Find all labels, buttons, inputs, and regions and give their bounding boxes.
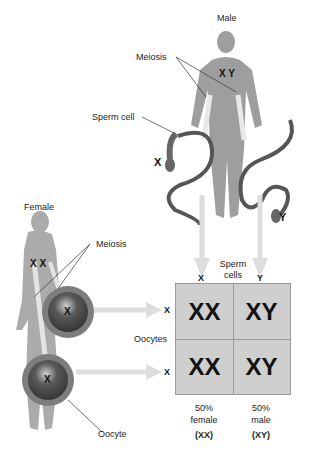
cell-xy-1: XY	[233, 284, 290, 340]
male-result: 50% male (XY)	[236, 402, 286, 441]
egg-2-chromosome: X	[44, 374, 51, 385]
female-result: 50% female (XX)	[179, 402, 229, 441]
male-genotype: (XY)	[236, 429, 286, 441]
cell-xx-1: XX	[176, 284, 234, 340]
male-sex: male	[236, 414, 286, 426]
row-header-x-1: X	[164, 305, 170, 315]
female-genotype: (XX)	[179, 429, 229, 441]
male-label: Male	[217, 13, 237, 23]
sperm-x-label: X	[154, 156, 161, 168]
oocytes-header: Oocytes	[134, 334, 167, 344]
female-label: Female	[24, 202, 54, 212]
female-percent: 50%	[179, 402, 229, 414]
egg-1-chromosome: X	[64, 306, 71, 317]
female-sex: female	[179, 414, 229, 426]
row-header-x-2: X	[164, 367, 170, 377]
cell-xy-2: XY	[233, 339, 290, 394]
sperm-cells-header: Sperm cells	[213, 259, 253, 281]
female-meiosis-label: Meiosis	[96, 239, 127, 249]
male-meiosis-label: Meiosis	[136, 52, 167, 62]
sperm-y-label: Y	[279, 211, 286, 223]
cell-xx-2: XX	[176, 339, 234, 394]
male-chromosomes: X Y	[219, 68, 235, 79]
col-header-x: X	[198, 273, 204, 283]
punnett-square: XX XY XX XY	[175, 283, 291, 395]
col-header-y: Y	[257, 273, 263, 283]
male-silhouette	[191, 31, 262, 218]
male-percent: 50%	[236, 402, 286, 414]
female-chromosomes: X X	[30, 258, 46, 269]
oocyte-label: Oocyte	[98, 429, 127, 439]
sperm-cell-label: Sperm cell	[92, 112, 135, 122]
